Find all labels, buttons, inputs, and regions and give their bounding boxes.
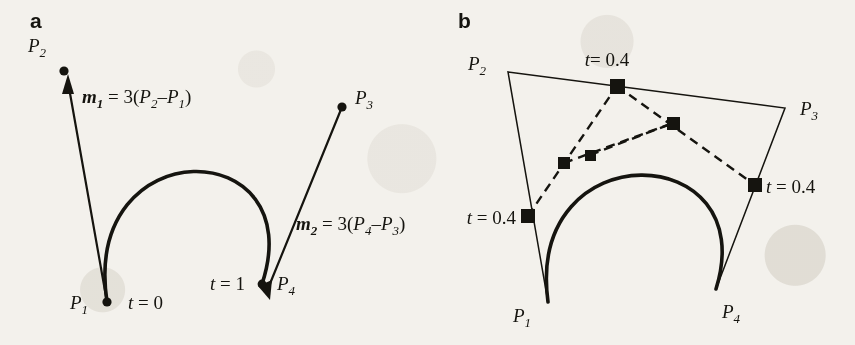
point-marker-p3-a [337,102,346,111]
point-marker-p2-a [59,66,68,75]
dashed-segment-q1-q2 [528,86,617,216]
panel-b-bezier-curve [546,175,722,302]
param-label-t04-top: t= 0.4 [585,49,630,70]
label-p1-a: P1 [69,292,88,317]
label-p4-b: P4 [721,301,741,326]
construction-marker-r1 [558,157,570,169]
construction-marker-q3 [748,178,762,192]
label-p2-b: P2 [467,53,487,78]
point-marker-p4-a [258,280,267,289]
panel-a: a P2 P1 P3 P4 m1 = 3(P2–P1) m2 = 3(P [27,9,405,317]
param-label-t1-a: t = 1 [210,273,245,294]
label-p2-a: P2 [27,35,47,60]
arrowhead-m1-icon [62,74,74,94]
construction-marker-q2 [610,79,625,94]
point-marker-p1-a [102,297,111,306]
equation-m2: m2 = 3(P4–P3) [296,213,405,238]
tangent-line-m1 [68,82,107,302]
label-p1-b: P1 [512,305,531,330]
construction-marker-s1 [585,150,596,161]
panel-a-letter: a [30,9,42,32]
dashed-segment-s1-r2 [590,123,673,155]
param-label-t0-a: t = 0 [128,292,163,313]
figure-canvas: a P2 P1 P3 P4 m1 = 3(P2–P1) m2 = 3(P [0,0,855,345]
panel-b-letter: b [458,9,471,32]
label-p3-a: P3 [354,87,374,112]
panel-b: b P2 P3 P1 P4 t= 0.4 t = 0.4 t = 0.4 [458,9,819,330]
construction-marker-r2 [667,117,680,130]
label-p4-a: P4 [276,273,296,298]
construction-marker-q1 [521,209,535,223]
label-p3-b: P3 [799,98,819,123]
param-label-t04-right: t = 0.4 [766,176,816,197]
equation-m1: m1 = 3(P2–P1) [82,86,191,111]
tangent-line-m2 [267,107,342,291]
panel-a-tangent-m2 [258,102,347,300]
param-label-t04-left: t = 0.4 [467,207,517,228]
